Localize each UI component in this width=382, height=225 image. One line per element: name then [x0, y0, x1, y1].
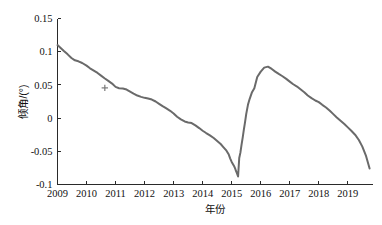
x-tick-label: 2013 — [163, 188, 184, 199]
x-tick-label: 2017 — [279, 188, 300, 199]
x-tick-label: 2011 — [105, 188, 126, 199]
y-axis-title: 倾角/(°) — [17, 84, 29, 118]
tick-marks-group — [58, 19, 348, 185]
x-tick-label: 2018 — [308, 188, 329, 199]
inclination-line-chart: 0.150.10.050-0.05-0.1 200920102011201220… — [0, 0, 382, 225]
y-tick-label: 0.15 — [34, 13, 52, 24]
cross-marker — [102, 85, 108, 91]
y-tick-labels: 0.150.10.050-0.05-0.1 — [31, 13, 53, 190]
x-tick-labels: 2009201020112012201320142015201620172018… — [47, 188, 358, 199]
y-tick-label: 0 — [47, 113, 52, 124]
x-tick-label: 2015 — [221, 188, 242, 199]
x-tick-label: 2012 — [134, 188, 155, 199]
x-axis-title: 年份 — [205, 203, 226, 215]
x-tick-label: 2010 — [76, 188, 97, 199]
x-tick-label: 2016 — [250, 188, 271, 199]
x-tick-label: 2014 — [192, 188, 214, 199]
axes-group — [58, 19, 373, 185]
y-tick-label: 0.1 — [39, 46, 52, 57]
data-series-group — [58, 45, 370, 176]
x-tick-label: 2009 — [47, 188, 68, 199]
chart-page: · · · · · · · · · · 0.150.10.050-0.05-0.… — [0, 0, 382, 225]
markers-group — [102, 85, 108, 91]
y-tick-label: -0.05 — [31, 146, 53, 157]
data-line-倾角 — [58, 45, 370, 176]
y-tick-label: 0.05 — [34, 80, 52, 91]
x-tick-label: 2019 — [337, 188, 358, 199]
